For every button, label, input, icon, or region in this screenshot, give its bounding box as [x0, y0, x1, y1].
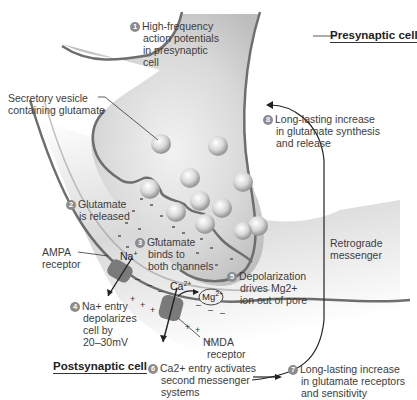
na-ion-label: Na+ [120, 250, 138, 262]
step-8-badge: 8 [263, 115, 273, 125]
presynaptic-cell-title: Presynaptic cell [330, 29, 417, 43]
step-8-label: 8Long-lasting increase in glutamate synt… [263, 113, 380, 149]
svg-text:+: + [150, 305, 155, 315]
step-4-label: 4Na+ entry depolarizes cell by 20–30mV [70, 300, 137, 348]
retrograde-messenger-label: Retrograde messenger [330, 237, 383, 261]
step-5-label: 5Depolarization drives Mg2+ ion out of p… [227, 270, 307, 306]
step-1-label: 1High-frequency action potentials in pre… [130, 20, 219, 68]
step-1-badge: 1 [130, 22, 140, 32]
step-3-label: 3Glutamate binds to both channels [135, 236, 213, 272]
svg-text:–: – [147, 280, 152, 290]
postsynaptic-cell-title: Postsynaptic cell [53, 360, 147, 374]
svg-text:–: – [196, 300, 201, 310]
step-7-label: 7Long-lasting increase in glutamate rece… [288, 363, 405, 399]
svg-text:+: + [185, 322, 190, 332]
mg-ion-label: Mg2+ [202, 291, 223, 302]
step-6-label: 6Ca2+ entry activates second messenger s… [148, 362, 256, 398]
nmda-receptor-label: NMDA receptor [203, 336, 246, 360]
svg-text:+: + [140, 300, 145, 310]
step-2-label: 2Glutamate is released [66, 198, 130, 222]
ca-ion-label: Ca2+ [170, 280, 191, 292]
step-3-badge: 3 [135, 238, 145, 248]
svg-text:–: – [158, 286, 163, 296]
svg-text:–: – [208, 305, 213, 315]
step-4-badge: 4 [70, 302, 80, 312]
step-2-badge: 2 [66, 200, 76, 210]
svg-text:–: – [220, 308, 225, 318]
svg-text:–: – [135, 274, 140, 284]
ampa-receptor-label: AMPA receptor [42, 246, 81, 270]
ltp-synapse-diagram: +++ +++ ––– ––– 1High-frequency action p… [0, 0, 417, 400]
step-5-badge: 5 [227, 272, 237, 282]
step-6-badge: 6 [148, 364, 158, 374]
step-7-badge: 7 [288, 365, 298, 375]
secretory-vesicle-label: Secretory vesicle containing glutamate [8, 92, 105, 116]
